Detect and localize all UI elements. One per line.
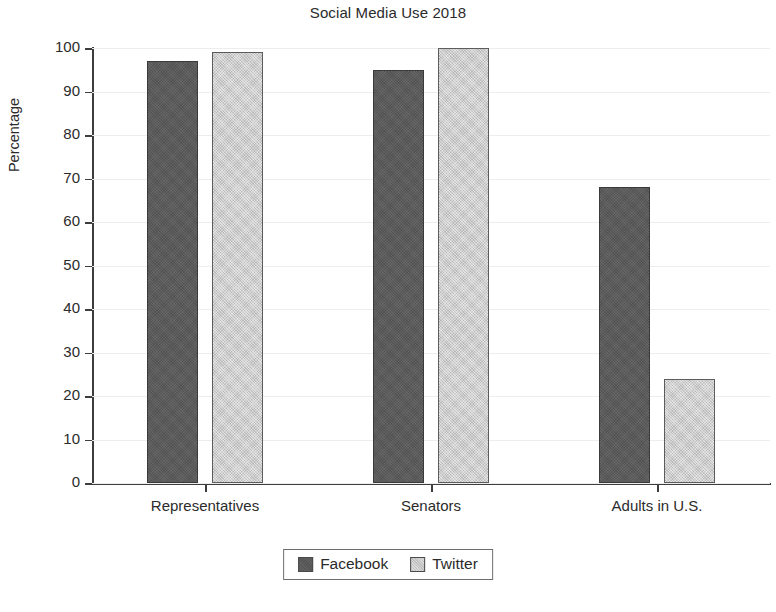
y-axis-tick-label: 10	[24, 430, 80, 447]
y-axis-tick-label: 90	[24, 82, 80, 99]
y-axis-tick	[85, 440, 92, 442]
bar-facebook-2	[599, 187, 650, 483]
x-axis-tick	[205, 484, 207, 492]
legend-label-facebook: Facebook	[320, 555, 388, 573]
bar-chart: Social Media Use 2018 Percentage 0102030…	[0, 0, 776, 612]
gridline	[92, 48, 770, 49]
plot-area	[92, 48, 770, 483]
y-axis-tick-label: 20	[24, 386, 80, 403]
legend-item-facebook: Facebook	[298, 555, 388, 573]
y-axis-tick-label: 100	[24, 38, 80, 55]
x-axis-category-label: Senators	[401, 497, 461, 514]
y-axis-tick-label: 80	[24, 125, 80, 142]
x-axis-category-label: Adults in U.S.	[612, 497, 703, 514]
legend-swatch-twitter	[410, 557, 425, 572]
y-axis-tick-label: 60	[24, 212, 80, 229]
y-axis-tick-label: 30	[24, 343, 80, 360]
y-axis-tick	[85, 48, 92, 50]
y-axis-tick	[85, 396, 92, 398]
y-axis-tick	[85, 309, 92, 311]
y-axis-tick	[85, 483, 92, 485]
y-axis-tick	[85, 353, 92, 355]
y-axis-tick	[85, 266, 92, 268]
legend-label-twitter: Twitter	[432, 555, 478, 573]
y-axis-tick-label: 70	[24, 169, 80, 186]
y-axis-tick-label: 0	[24, 473, 80, 490]
y-axis-tick-label: 50	[24, 256, 80, 273]
bar-twitter-1	[438, 48, 489, 483]
bar-twitter-2	[664, 379, 715, 483]
y-axis-tick-label: 40	[24, 299, 80, 316]
chart-title: Social Media Use 2018	[0, 4, 776, 21]
x-axis-tick	[657, 484, 659, 492]
x-axis-tick	[431, 484, 433, 492]
legend-item-twitter: Twitter	[410, 555, 478, 573]
y-axis-tick	[85, 179, 92, 181]
y-axis-tick	[85, 92, 92, 94]
bar-twitter-0	[212, 52, 263, 483]
x-axis-category-label: Representatives	[151, 497, 259, 514]
bar-facebook-0	[147, 61, 198, 483]
y-axis-title: Percentage	[6, 60, 22, 210]
chart-legend: Facebook Twitter	[283, 549, 493, 580]
bar-facebook-1	[373, 70, 424, 483]
legend-swatch-facebook	[298, 557, 313, 572]
y-axis-tick	[85, 222, 92, 224]
y-axis-tick	[85, 135, 92, 137]
